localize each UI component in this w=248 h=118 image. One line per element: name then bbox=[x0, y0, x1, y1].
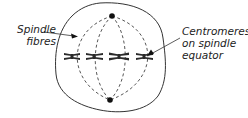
spindle-fibres-label: Spindle fibres bbox=[8, 23, 56, 47]
chromosome-2 bbox=[86, 53, 103, 60]
chromosome-3 bbox=[109, 53, 129, 61]
centromeres-label-line-2: on spindle bbox=[182, 37, 248, 49]
centromeres-label: Centromeres on spindle equator bbox=[182, 25, 248, 61]
spindle-fibres-label-line-1: Spindle bbox=[8, 23, 56, 35]
top-pole bbox=[109, 13, 115, 19]
spindle-fibres-label-line-2: fibres bbox=[8, 35, 56, 47]
centromeres-label-line-3: equator bbox=[182, 49, 248, 61]
bottom-pole bbox=[107, 97, 113, 103]
metaphase-diagram: Spindle fibres Centromeres on spindle eq… bbox=[0, 0, 248, 118]
centromeres-label-line-1: Centromeres bbox=[182, 25, 248, 37]
